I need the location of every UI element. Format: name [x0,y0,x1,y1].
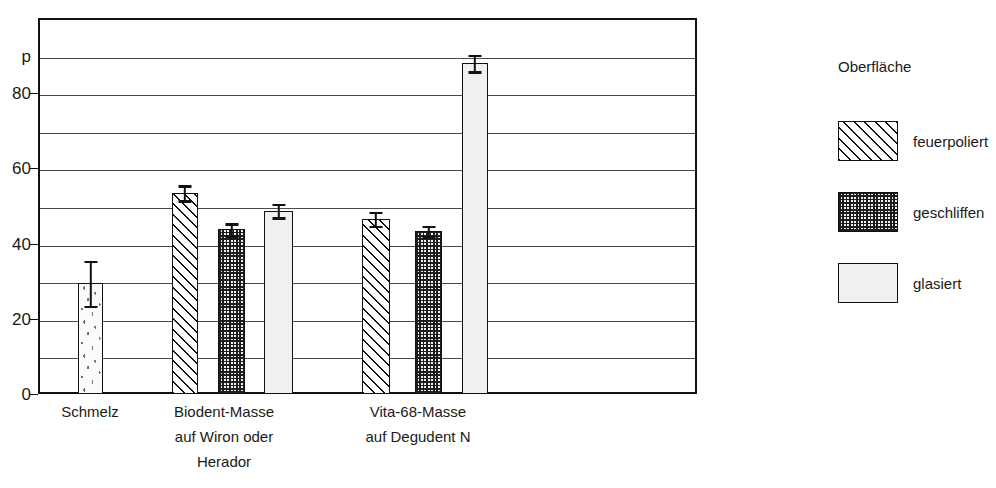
error-bar-cap [84,261,97,263]
x-axis-group-label: Schmelz [61,399,119,424]
error-bar-cap [225,235,238,237]
bar [264,211,293,394]
legend-item: feuerpoliert [838,119,996,163]
y-axis-unit-label: p [22,47,31,64]
error-bar [474,55,476,72]
error-bar-cap [272,204,285,206]
y-tick-mark [30,93,38,94]
legend-label: geschliffen [913,204,984,221]
x-axis-label-line: Schmelz [61,399,119,424]
error-bar-cap [225,223,238,225]
error-bar-cap [370,212,383,214]
x-axis-label-line: auf Wiron oder [174,424,274,449]
error-bar-cap [422,226,435,228]
error-bar-cap [179,200,192,202]
y-tick-label: 20 [12,310,31,327]
bar [362,219,390,394]
y-tick-label: 40 [12,235,31,252]
x-axis-label-line: Herador [174,449,274,474]
x-axis-group-label: Biodent-Masseauf Wiron oderHerador [174,399,274,474]
error-bar-cap [179,185,192,187]
y-tick-mark [30,319,38,320]
x-axis-labels: SchmelzBiodent-Masseauf Wiron oderHerado… [38,399,697,488]
y-tick-label: 80 [12,85,31,102]
error-bar-cap [469,55,482,57]
bar [415,231,442,394]
x-axis-label-line: auf Degudent N [365,424,470,449]
bar [172,193,198,394]
legend-label: feuerpoliert [913,133,988,150]
error-bar-cap [370,226,383,228]
legend-swatch [838,192,898,232]
bars-layer [38,18,697,394]
legend-label: glasiert [913,275,961,292]
legend-item: glasiert [838,261,996,305]
y-axis: 020406080p [0,0,38,412]
legend-entries: feuerpoliertgeschliffenglasiert [838,119,996,305]
legend-swatch [838,263,898,303]
y-tick-mark [30,244,38,245]
y-tick-mark [30,394,38,395]
y-tick-label: 60 [12,160,31,177]
error-bar [89,261,91,306]
legend: Oberfläche feuerpoliertgeschliffenglasie… [838,58,996,332]
x-axis-label-line: Biodent-Masse [174,399,274,424]
error-bar-cap [84,306,97,308]
x-axis-group-label: Vita-68-Masseauf Degudent N [365,399,470,449]
error-bar-cap [272,217,285,219]
x-axis-label-line: Vita-68-Masse [365,399,470,424]
error-bar-cap [469,71,482,73]
bar [462,63,488,394]
bar [218,229,245,394]
y-tick-mark [30,168,38,169]
legend-item: geschliffen [838,190,996,234]
legend-title: Oberfläche [838,58,996,75]
legend-swatch [838,121,898,161]
error-bar-cap [422,236,435,238]
